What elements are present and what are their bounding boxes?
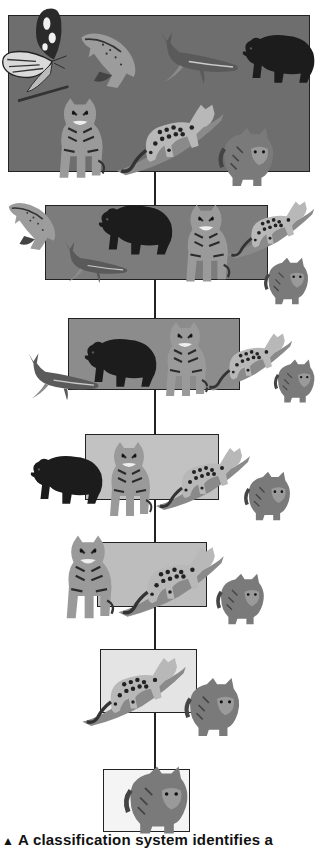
trout-image — [4, 195, 66, 257]
trout-image — [76, 25, 148, 95]
cat-image — [214, 572, 268, 626]
bear-image — [28, 442, 106, 514]
bear-image — [240, 18, 318, 96]
whale-image — [152, 18, 244, 94]
figure-caption: ▲A classification system identifies a — [2, 831, 273, 848]
caption-text: A classification system identifies a — [18, 831, 273, 848]
connector-line — [154, 500, 156, 542]
cat-image — [182, 676, 244, 738]
bear-image — [96, 190, 176, 266]
butterfly-image — [0, 5, 72, 105]
tiger-image — [60, 532, 116, 624]
triangle-marker-icon: ▲ — [2, 834, 14, 848]
ocelot-image — [78, 650, 188, 734]
ocelot-image — [114, 540, 226, 624]
connector-line — [154, 607, 156, 649]
bear-image — [82, 324, 160, 398]
connector-line — [154, 280, 156, 318]
cat-image — [272, 358, 318, 404]
ocelot-image — [152, 442, 252, 516]
cat-image — [262, 256, 312, 306]
connector-line — [154, 390, 156, 434]
ocelot-image — [224, 196, 316, 264]
cat-image — [120, 764, 194, 836]
tiger-image — [104, 440, 154, 520]
ocelot-image — [112, 100, 226, 180]
connector-line — [154, 713, 156, 769]
tiger-image — [50, 96, 110, 182]
cat-image — [242, 470, 294, 522]
cat-image — [216, 126, 278, 188]
